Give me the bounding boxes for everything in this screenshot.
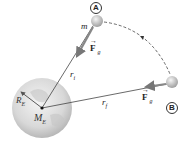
earth-radius-label: RE (16, 96, 25, 107)
mass-label: m (81, 22, 88, 31)
point-a-label: A (90, 2, 102, 14)
point-b-label: B (166, 102, 178, 114)
r-final-label: rf (102, 98, 107, 109)
mass-ball-a (91, 15, 103, 27)
force-b-label: → F g (142, 93, 152, 104)
earth-mass-label: ME (34, 113, 46, 125)
mass-ball-b (166, 76, 178, 88)
diagram-canvas (0, 0, 191, 148)
trajectory-path (104, 22, 170, 74)
r-initial-label: ri (70, 70, 75, 81)
trajectory-arrow-icon (140, 36, 144, 40)
force-a-label: → F g (90, 44, 100, 55)
force-arrow-b (146, 84, 166, 87)
earth-center-dot (40, 106, 43, 109)
